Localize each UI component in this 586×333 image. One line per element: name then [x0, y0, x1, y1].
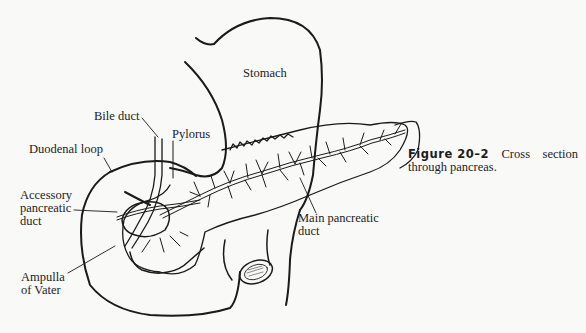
stomach-outline [170, 18, 322, 305]
label-bile-duct: Bile duct [94, 110, 139, 123]
label-duodenal-loop: Duodenal loop [29, 143, 103, 156]
leader-lines [68, 118, 316, 273]
caption-line-2: through pancreas. [408, 161, 578, 174]
label-main-pancreatic-duct: Main pancreatic duct [298, 212, 379, 238]
intestine-cross-section [224, 230, 276, 288]
pancreas-body [123, 121, 420, 273]
label-stomach: Stomach [243, 67, 287, 80]
label-ampulla-of-vater: Ampulla of Vater [21, 271, 65, 297]
caption-word-section: section [543, 148, 578, 161]
label-pylorus: Pylorus [172, 128, 210, 141]
pancreas-diagram: Stomach Bile duct Pylorus Duodenal loop … [0, 0, 586, 333]
pancreas-head [122, 202, 204, 273]
caption-word-cross: Cross [502, 148, 530, 161]
label-accessory-pancreatic-duct: Accessory pancreatic duct [20, 189, 72, 228]
bile-duct [125, 137, 162, 248]
figure-caption: Figure 20–2 Cross section through pancre… [408, 148, 578, 174]
